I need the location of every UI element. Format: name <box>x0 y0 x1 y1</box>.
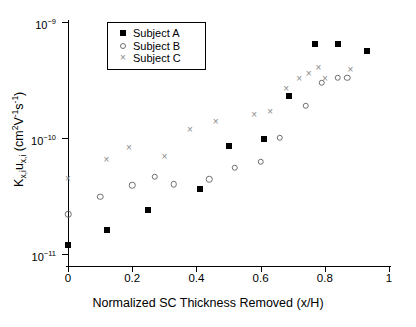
data-point <box>211 116 220 125</box>
y-title-sup-2: 2 <box>10 126 20 131</box>
data-point <box>261 136 267 142</box>
y-axis-title: Kx,iux,i (cm2V-1s-1) <box>8 24 31 254</box>
data-point <box>364 48 370 54</box>
data-point <box>160 151 169 160</box>
legend-label: Subject C <box>133 52 181 64</box>
x-axis-line <box>66 266 391 267</box>
x-tick-label: 1 <box>369 272 409 284</box>
data-point <box>295 73 304 82</box>
data-point <box>286 93 292 99</box>
x-tick-label: 0.2 <box>112 272 152 284</box>
data-point <box>65 242 71 248</box>
data-point <box>282 83 291 92</box>
data-point <box>129 182 136 189</box>
data-point <box>314 62 323 71</box>
legend-label: Subject A <box>133 27 179 39</box>
data-point <box>206 176 213 183</box>
chart-figure: 10−1110−1010−9 00.20.40.60.81 Subject A … <box>0 0 416 327</box>
open-circle-icon <box>113 43 133 50</box>
data-point <box>302 102 309 109</box>
data-point <box>346 65 355 74</box>
data-point <box>197 186 203 192</box>
y-title-sub2: x,i <box>18 155 28 164</box>
x-axis-title: Normalized SC Thickness Removed (x/H) <box>0 296 416 310</box>
y-title-sub1: x,i <box>18 170 28 179</box>
data-point <box>124 143 133 152</box>
data-point <box>226 143 232 149</box>
data-point <box>151 174 158 181</box>
data-point <box>277 135 284 142</box>
x-tick-label: 0.4 <box>176 272 216 284</box>
data-point <box>334 75 341 82</box>
data-point <box>312 41 318 47</box>
y-title-u: u <box>12 163 26 170</box>
data-point <box>65 211 72 218</box>
data-point <box>64 174 73 183</box>
data-point <box>344 75 351 82</box>
legend-label: Subject B <box>133 40 180 52</box>
cross-icon: × <box>113 53 133 63</box>
data-point <box>335 41 341 47</box>
legend-item-subject-c: × Subject C <box>113 52 200 65</box>
data-point <box>257 159 264 166</box>
data-point <box>102 154 111 163</box>
legend-item-subject-b: Subject B <box>113 40 200 53</box>
y-title-v: V <box>12 117 26 125</box>
y-title-units-close: ) <box>12 92 26 96</box>
x-tick-label: 0.8 <box>305 272 345 284</box>
data-point <box>171 181 178 188</box>
y-title-units-open: (cm <box>12 130 26 154</box>
filled-square-icon <box>113 30 133 36</box>
legend-item-subject-a: Subject A <box>113 27 200 40</box>
x-tick-label: 0 <box>48 272 88 284</box>
data-point <box>104 227 110 233</box>
y-title-k: K <box>12 179 26 187</box>
data-point <box>266 107 275 116</box>
data-point <box>232 165 239 172</box>
chart-legend: Subject A Subject B × Subject C <box>107 22 206 70</box>
data-point <box>145 207 151 213</box>
y-title-s: s <box>12 103 26 109</box>
y-title-sup-v: -1 <box>10 110 20 118</box>
data-point <box>304 69 313 78</box>
data-point <box>320 73 329 82</box>
data-point <box>250 110 259 119</box>
data-point <box>97 194 104 201</box>
x-tick-label: 0.6 <box>241 272 281 284</box>
y-title-sup-s: -1 <box>10 96 20 104</box>
data-point <box>185 124 194 133</box>
